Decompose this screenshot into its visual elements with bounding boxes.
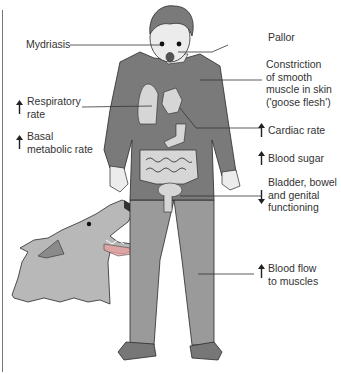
label-basal-metabolic-rate: Basal metabolic rate: [27, 130, 93, 155]
dog-illustration: [12, 200, 134, 304]
up-arrow-icon: [16, 135, 23, 149]
up-arrow-icon: [258, 123, 265, 137]
down-arrow-icon: [258, 190, 265, 204]
up-arrow-icon: [258, 151, 265, 165]
up-arrow-icon: [258, 264, 265, 278]
label-respiratory-rate: Respiratory rate: [27, 95, 81, 120]
up-arrow-icon: [16, 100, 23, 114]
label-pallor: Pallor: [268, 31, 295, 44]
label-blood-flow: Blood flow to muscles: [268, 262, 318, 287]
label-blood-sugar: Blood sugar: [268, 152, 324, 165]
boy-illustration: [104, 6, 240, 360]
label-bladder-bowel-genital: Bladder, bowel and genital functioning: [268, 176, 337, 214]
label-cardiac-rate: Cardiac rate: [268, 124, 325, 137]
label-goose-flesh: Constriction of smooth muscle in skin ('…: [266, 58, 332, 108]
label-mydriasis: Mydriasis: [26, 38, 70, 51]
